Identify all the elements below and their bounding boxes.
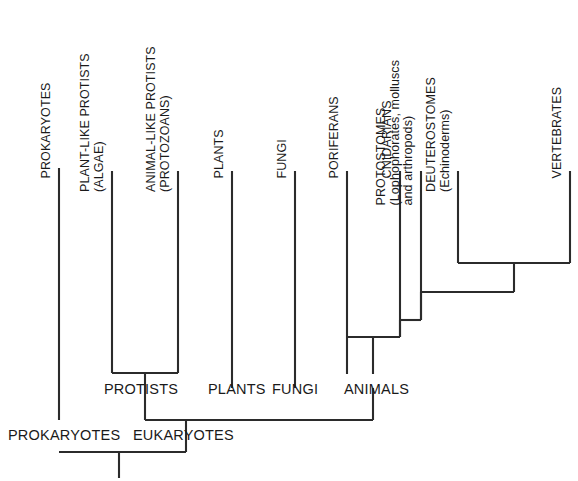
tip-label-plant-like-protists: PLANT-LIKE PROTISTS (ALGAE) — [79, 53, 106, 192]
tip-label-animal-like-protists: ANIMAL-LIKE PROTISTS (PROTOZOANS) — [145, 46, 172, 192]
tip-label-animal-like-protists-line-2: (PROTOZOANS) — [159, 46, 173, 192]
tip-label-poriferans-line-1: PORIFERANS — [328, 96, 342, 178]
node-label-animals: ANIMALS — [344, 381, 409, 397]
tip-label-plants: PLANTS — [213, 129, 227, 178]
tip-label-deuterostomes-line-2: (Echinoderms) — [439, 77, 453, 192]
tip-label-fungi-line-1: FUNGI — [276, 139, 290, 178]
tip-label-prokaryotes-line-1: PROKARYOTES — [40, 82, 54, 178]
tip-label-protostomes: PROTOSTOMES (Lophophorates, molluscs and… — [375, 60, 416, 206]
tip-label-vertebrates-line-1: VERTEBRATES — [551, 87, 565, 179]
tip-label-deuterostomes: DEUTEROSTOMES (Echinoderms) — [425, 77, 452, 192]
node-label-protists: PROTISTS — [104, 381, 178, 397]
tip-label-fungi: FUNGI — [276, 139, 290, 178]
tip-label-poriferans: PORIFERANS — [328, 96, 342, 178]
tip-label-vertebrates: VERTEBRATES — [551, 87, 565, 179]
tip-label-plant-like-protists-line-2: (ALGAE) — [93, 53, 107, 192]
node-label-plants: PLANTS — [208, 381, 266, 397]
tip-label-plant-like-protists-line-1: PLANT-LIKE PROTISTS — [79, 53, 93, 192]
tip-label-protostomes-line-1: PROTOSTOMES — [375, 60, 389, 206]
tip-label-protostomes-line-2: (Lophophorates, molluscs — [388, 60, 402, 206]
phylogenetic-tree-figure: PROKARYOTES PLANT-LIKE PROTISTS (ALGAE) … — [0, 0, 578, 481]
tip-label-prokaryotes: PROKARYOTES — [40, 82, 54, 178]
node-label-eukaryotes: EUKARYOTES — [133, 427, 234, 443]
tip-label-animal-like-protists-line-1: ANIMAL-LIKE PROTISTS — [145, 46, 159, 192]
tip-label-deuterostomes-line-1: DEUTEROSTOMES — [425, 77, 439, 192]
node-label-prokaryotes: PROKARYOTES — [8, 427, 120, 443]
tip-label-plants-line-1: PLANTS — [213, 129, 227, 178]
node-label-fungi: FUNGI — [272, 381, 318, 397]
tip-label-protostomes-line-3: and arthropods) — [402, 60, 416, 206]
